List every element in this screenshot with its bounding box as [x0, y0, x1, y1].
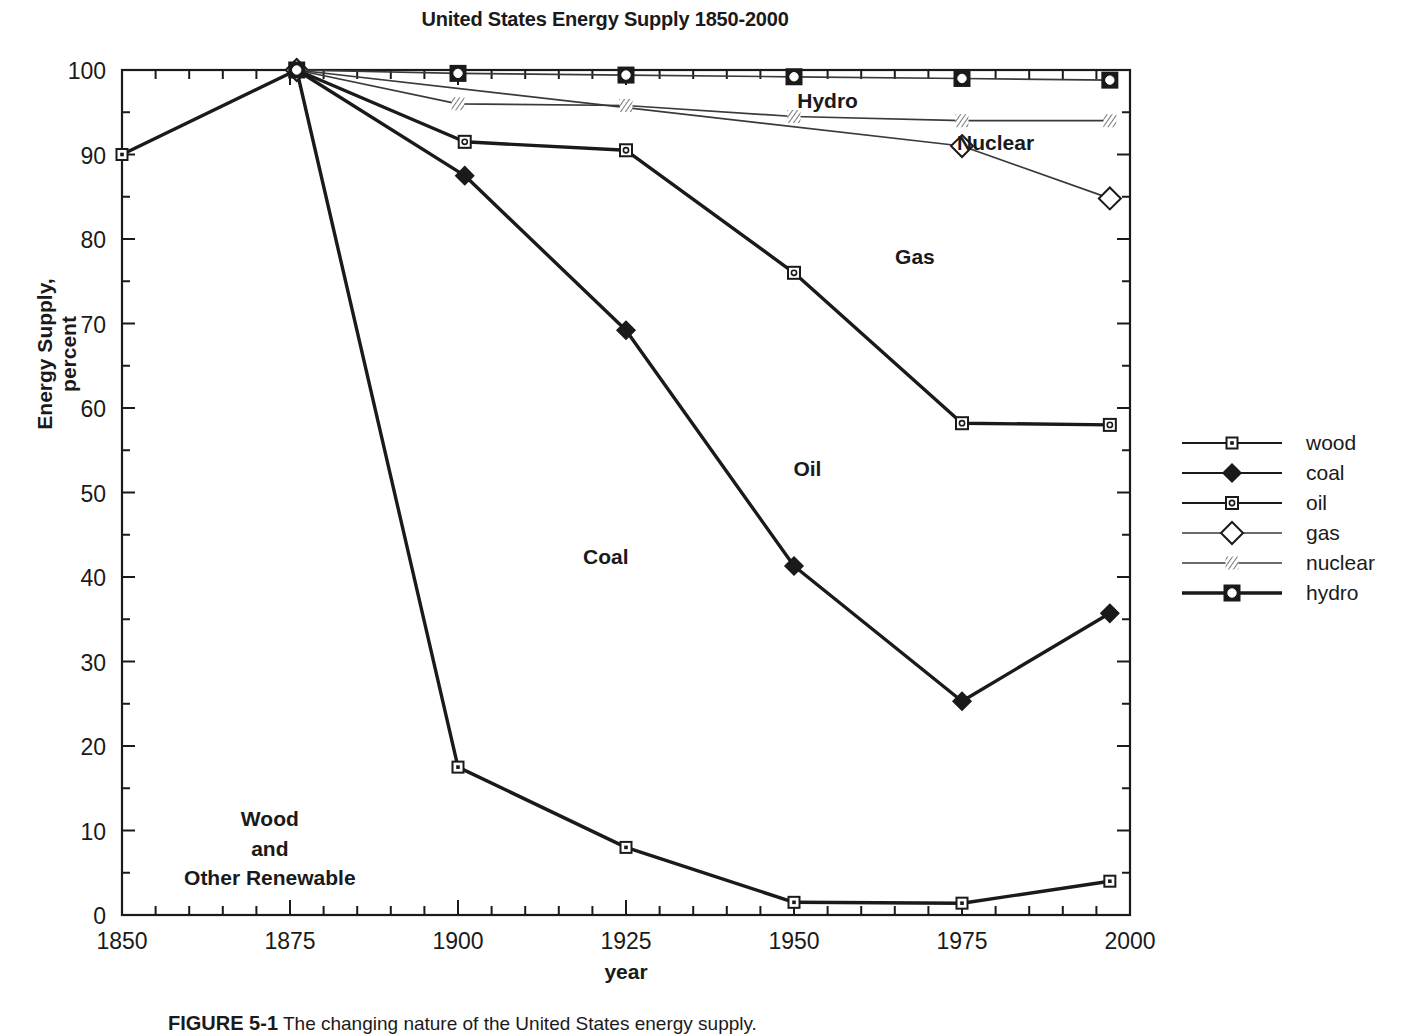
data-point-marker	[1101, 604, 1119, 622]
data-point-marker	[289, 63, 304, 78]
data-point-marker	[955, 71, 970, 86]
y-tick-label: 0	[93, 903, 106, 929]
y-tick-label: 40	[80, 565, 106, 591]
plot-annotation: Gas	[895, 245, 935, 268]
data-point-marker	[956, 417, 968, 429]
series-layer	[117, 59, 1121, 909]
x-tick-label: 1875	[264, 928, 315, 954]
plot-annotation: Other Renewable	[184, 866, 356, 889]
y-tick-label: 60	[80, 396, 106, 422]
x-tick-label: 2000	[1104, 928, 1155, 954]
open-diamond-icon	[1178, 520, 1286, 546]
y-tick-label: 70	[80, 312, 106, 338]
data-point-marker	[620, 99, 633, 112]
legend-label: wood	[1306, 431, 1356, 455]
y-tick-label: 100	[68, 58, 106, 84]
square-circle-small-icon	[1178, 490, 1286, 516]
legend-item-gas[interactable]: gas	[1178, 518, 1408, 548]
x-tick-label: 1950	[768, 928, 819, 954]
legend-item-coal[interactable]: coal	[1178, 458, 1408, 488]
data-point-marker	[787, 69, 802, 84]
axes-layer: 0102030405060708090100185018751900192519…	[68, 58, 1156, 954]
data-point-marker	[956, 114, 969, 127]
data-point-marker	[788, 267, 800, 279]
y-tick-label: 10	[80, 819, 106, 845]
plot-annotation: Wood	[241, 807, 299, 830]
data-point-marker	[1226, 557, 1239, 570]
x-tick-label: 1900	[432, 928, 483, 954]
x-tick-label: 1925	[600, 928, 651, 954]
y-tick-label: 30	[80, 650, 106, 676]
y-tick-label: 20	[80, 734, 106, 760]
data-point-marker	[1099, 187, 1121, 209]
data-point-marker	[1102, 73, 1117, 88]
legend-label: nuclear	[1306, 551, 1375, 575]
data-point-marker	[620, 144, 632, 156]
legend-label: oil	[1306, 491, 1327, 515]
data-point-marker	[1223, 464, 1241, 482]
data-point-marker	[789, 897, 800, 908]
y-tick-label: 90	[80, 143, 106, 169]
data-point-marker	[1226, 497, 1238, 509]
hatched-icon	[1178, 550, 1286, 576]
data-point-marker	[1227, 438, 1238, 449]
data-point-marker	[957, 898, 968, 909]
plot-annotation: Oil	[793, 457, 821, 480]
legend-label: coal	[1306, 461, 1345, 485]
x-tick-label: 1975	[936, 928, 987, 954]
data-point-marker	[452, 97, 465, 110]
series-wood	[117, 65, 1116, 909]
data-point-marker	[451, 66, 466, 81]
data-point-marker	[619, 68, 634, 83]
plot-annotation: Nuclear	[957, 131, 1034, 154]
series-coal	[288, 61, 1119, 710]
figure-caption-number: FIGURE 5-1	[168, 1012, 278, 1034]
data-point-marker	[1221, 522, 1243, 544]
data-point-marker	[621, 842, 632, 853]
data-point-marker	[459, 136, 471, 148]
plot-annotation: Coal	[583, 545, 629, 568]
data-point-marker	[1104, 876, 1115, 887]
figure-caption-text: The changing nature of the United States…	[283, 1013, 757, 1034]
legend-item-oil[interactable]: oil	[1178, 488, 1408, 518]
data-point-marker	[117, 149, 128, 160]
legend-item-wood[interactable]: wood	[1178, 428, 1408, 458]
legend-item-nuclear[interactable]: nuclear	[1178, 548, 1408, 578]
chart-legend: woodcoaloilgasnuclearhydro	[1178, 428, 1408, 608]
annotation-layer: HydroNuclearGasOilCoalWoodandOther Renew…	[184, 89, 1034, 889]
legend-label: hydro	[1306, 581, 1359, 605]
data-point-marker	[1104, 419, 1116, 431]
data-point-marker	[1225, 586, 1240, 601]
square-circle-icon	[1178, 580, 1286, 606]
plot-annotation: and	[251, 837, 288, 860]
legend-label: gas	[1306, 521, 1340, 545]
data-point-marker	[453, 762, 464, 773]
plot-annotation: Hydro	[797, 89, 858, 112]
square-dot-icon	[1178, 430, 1286, 456]
filled-diamond-icon	[1178, 460, 1286, 486]
legend-item-hydro[interactable]: hydro	[1178, 578, 1408, 608]
y-tick-label: 50	[80, 481, 106, 507]
series-oil	[291, 64, 1116, 431]
figure-caption: FIGURE 5-1 The changing nature of the Un…	[168, 1012, 757, 1035]
data-point-marker	[1103, 114, 1116, 127]
x-tick-label: 1850	[96, 928, 147, 954]
y-tick-label: 80	[80, 227, 106, 253]
